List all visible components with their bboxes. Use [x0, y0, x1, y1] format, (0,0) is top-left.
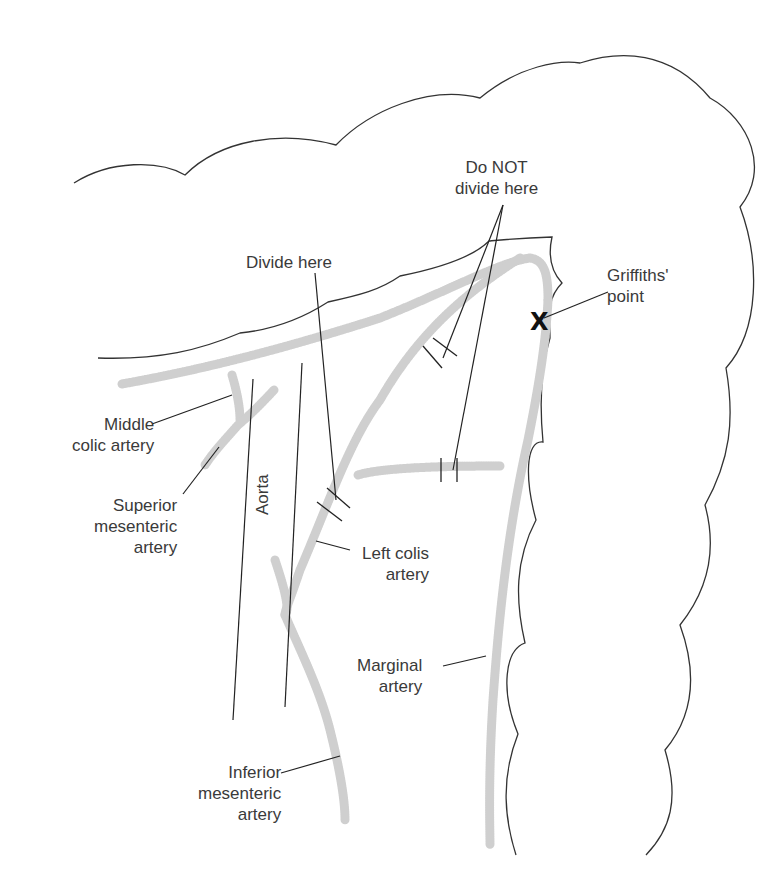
inferior-mesenteric-artery	[285, 615, 345, 820]
griffiths-point-marker-icon: X	[530, 310, 549, 334]
label-griffiths-point: Griffiths' point	[607, 265, 669, 307]
label-superior-mesenteric-artery: Superior mesenteric artery	[94, 495, 177, 558]
label-do-not-divide: Do NOT divide here	[455, 157, 538, 199]
do-not-divide-ticks-upper	[423, 338, 457, 368]
label-middle-colic-artery: Middle colic artery	[72, 414, 154, 456]
label-marginal-artery: Marginal artery	[357, 655, 422, 697]
leader-divide-here	[315, 273, 336, 500]
middle-colic-branch	[232, 375, 240, 420]
leader-middle-colic	[152, 395, 232, 424]
label-divide-here: Divide here	[246, 252, 332, 273]
leader-do-not-divide-2	[453, 205, 503, 470]
leader-inferior-mesenteric	[281, 756, 340, 773]
label-aorta: Aorta	[252, 474, 273, 515]
left-colic-horizontal	[358, 466, 500, 475]
transverse-arcade	[122, 258, 548, 384]
leader-marginal	[443, 656, 486, 666]
label-left-colic-artery: Left colis artery	[362, 543, 429, 585]
leader-do-not-divide-1	[443, 205, 503, 358]
colon-outline	[74, 56, 754, 855]
marginal-artery	[490, 300, 548, 845]
label-inferior-mesenteric-artery: Inferior mesenteric artery	[198, 762, 281, 825]
leader-superior-mesenteric	[183, 447, 219, 494]
leader-left-colic	[316, 541, 350, 550]
imv-upper	[275, 560, 287, 615]
anatomy-diagram: X Do NOT divide here Divide here Griffit…	[0, 0, 775, 893]
